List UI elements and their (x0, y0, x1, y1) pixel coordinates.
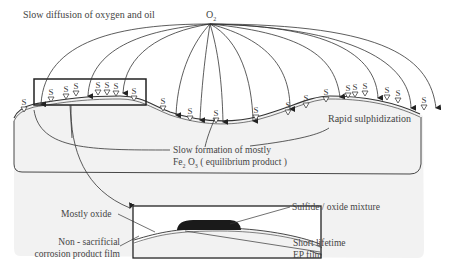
label-slow-formation-1: Slow formation of mostly (173, 145, 271, 156)
label-non-sacrificial-1: Non - sacrificial (22, 237, 120, 248)
label-o2: O2 (206, 9, 216, 25)
label-slow-diffusion: Slow diffusion of oxygen and oil (23, 9, 155, 20)
diagram-graphics: S (0, 0, 454, 276)
label-mostly-oxide: Mostly oxide (61, 209, 111, 220)
o2-subscript: 2 (213, 16, 216, 22)
label-rapid-sulphidization: Rapid sulphidization (328, 113, 411, 124)
label-sulfide-oxide: Sulfide / oxide mixture (292, 202, 380, 213)
label-ep-film: EP film (293, 250, 322, 261)
label-non-sacrificial-2: corrosion product film (12, 249, 120, 260)
fe-text: Fe (173, 157, 183, 167)
o-text: O (186, 157, 195, 167)
corrosion-diagram: S (0, 0, 454, 276)
equilibrium-text: ( equilibrium product ) (198, 157, 287, 167)
label-short-lifetime: Short lifetime (293, 238, 346, 249)
label-slow-formation-2: Fe2 O3 ( equilibrium product ) (173, 157, 287, 172)
